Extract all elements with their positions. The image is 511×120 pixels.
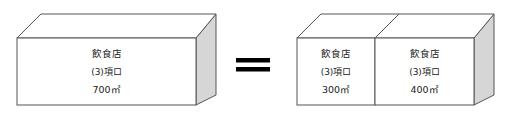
right-block-1-clause: (3)項ロ [321, 67, 352, 77]
left-block-name: 飲食店 [92, 48, 122, 59]
left-block-clause: (3)項ロ [91, 67, 122, 77]
right-block-group: 飲食店 (3)項ロ 300㎡ 飲食店 (3)項ロ 400㎡ [297, 14, 494, 105]
diagram-canvas: 飲食店 (3)項ロ 700㎡ 飲食店 (3)項ロ 300㎡ 飲食店 ( [0, 0, 511, 120]
left-block: 飲食店 (3)項ロ 700㎡ [17, 14, 216, 105]
equivalence-diagram: 飲食店 (3)項ロ 700㎡ 飲食店 (3)項ロ 300㎡ 飲食店 ( [0, 0, 511, 120]
left-block-top-face [17, 14, 216, 38]
right-block-2-area: 400㎡ [410, 84, 438, 95]
right-block-2-name: 飲食店 [410, 48, 440, 59]
right-block-1-name: 飲食店 [321, 48, 351, 59]
left-block-area: 700㎡ [92, 84, 120, 95]
equals-bar-top [236, 58, 270, 63]
right-block-2-clause: (3)項ロ [409, 67, 440, 77]
equals-sign [236, 58, 270, 72]
equals-bar-bottom [236, 67, 270, 72]
right-block-1-area: 300㎡ [322, 84, 350, 95]
